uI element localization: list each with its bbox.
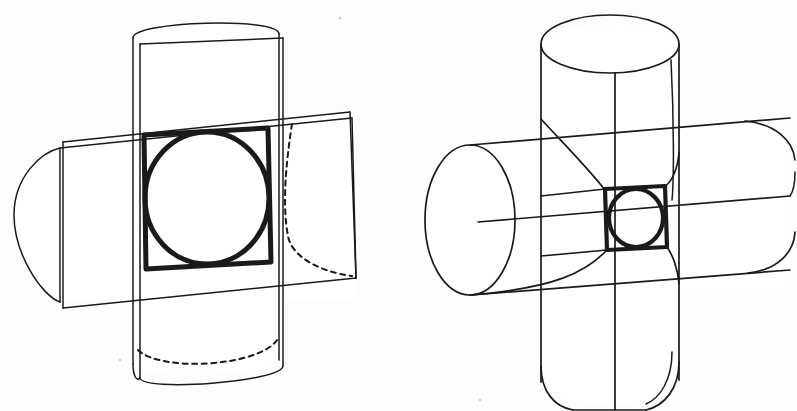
scan-speck-top [338, 16, 341, 19]
technical-drawing-canvas [0, 0, 797, 411]
scan-speck-bottom-right [479, 399, 482, 402]
scan-speck-bottom-left [119, 359, 122, 362]
drawing-sheet [0, 0, 797, 411]
